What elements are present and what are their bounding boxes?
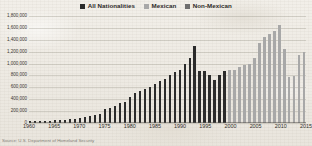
bar — [129, 97, 131, 123]
bar — [223, 71, 225, 123]
bar — [149, 87, 151, 123]
bar — [104, 109, 106, 123]
bar-series-container — [29, 16, 306, 123]
square-swatch-icon — [185, 4, 190, 9]
bar — [243, 65, 245, 123]
x-axis-tick-label: 1960 — [23, 124, 35, 129]
bar — [154, 84, 156, 123]
bar — [248, 64, 250, 123]
y-axis-tick-label: 600,000 — [11, 85, 27, 90]
bar — [208, 75, 210, 123]
x-axis-line — [29, 122, 306, 123]
bar — [273, 31, 275, 123]
bar — [189, 58, 191, 123]
y-axis-tick-label: 1,000,000 — [7, 61, 27, 66]
legend-item-label: All Nationalities — [88, 3, 135, 9]
bar — [293, 76, 295, 123]
source-caption: Source: U.S. Department of Homeland Secu… — [2, 139, 94, 143]
bar — [109, 108, 111, 123]
y-axis-tick-label: 1,400,000 — [7, 37, 27, 42]
x-axis-tick-label: 1965 — [48, 124, 60, 129]
bar — [124, 102, 126, 123]
plot-area: 1,800,0001,600,0001,400,0001,200,0001,00… — [29, 16, 306, 123]
bar — [303, 52, 305, 123]
square-swatch-icon — [144, 4, 149, 9]
x-axis-tick-labels: 1960196519701975198019851990199520002005… — [29, 124, 306, 134]
x-axis-tick-label: 1980 — [124, 124, 136, 129]
bar — [283, 49, 285, 123]
bar — [298, 55, 300, 123]
bar — [134, 93, 136, 123]
x-axis-tick-label: 1970 — [73, 124, 85, 129]
legend-item: All Nationalities — [80, 3, 135, 9]
x-axis-tick-label: 1985 — [149, 124, 161, 129]
x-axis-tick-label: 1975 — [99, 124, 111, 129]
bar — [139, 91, 141, 123]
bar — [184, 64, 186, 123]
bar — [278, 25, 280, 123]
legend-item: Mexican — [144, 3, 176, 9]
bar-chart: All NationalitiesMexicanNon-Mexican 1,80… — [0, 0, 312, 146]
y-axis-tick-label: 1,600,000 — [7, 26, 27, 31]
bar — [174, 72, 176, 123]
legend-item-label: Mexican — [151, 3, 176, 9]
bar — [179, 70, 181, 124]
x-axis-tick-label: 1995 — [199, 124, 211, 129]
bar — [218, 75, 220, 123]
bar — [114, 106, 116, 123]
square-swatch-icon — [80, 4, 85, 9]
bar — [258, 43, 260, 123]
x-axis-tick-label: 2010 — [275, 124, 287, 129]
bar — [238, 67, 240, 123]
x-axis-tick-label: 2000 — [224, 124, 236, 129]
bar — [203, 71, 205, 123]
legend-item-label: Non-Mexican — [193, 3, 232, 9]
bar — [228, 70, 230, 124]
y-axis-tick-label: 1,200,000 — [7, 49, 27, 54]
bar — [169, 75, 171, 123]
bar — [233, 70, 235, 124]
x-axis-tick-label: 1990 — [174, 124, 186, 129]
bar — [268, 34, 270, 123]
y-axis-tick-label: 800,000 — [11, 73, 27, 78]
y-axis-tick-label: 400,000 — [11, 97, 27, 102]
bar — [159, 81, 161, 123]
x-axis-tick-label: 2005 — [250, 124, 262, 129]
bar — [144, 89, 146, 123]
bar — [198, 71, 200, 123]
bar — [288, 77, 290, 123]
legend-item: Non-Mexican — [185, 3, 232, 9]
bar — [263, 37, 265, 123]
y-axis-tick-label: 200,000 — [11, 109, 27, 114]
chart-legend: All NationalitiesMexicanNon-Mexican — [0, 1, 312, 12]
bar — [193, 46, 195, 123]
bar — [253, 58, 255, 123]
y-axis-tick-label: 1,800,000 — [7, 14, 27, 19]
x-axis-tick-label: 2015 — [300, 124, 312, 129]
bar — [213, 80, 215, 123]
bar — [119, 103, 121, 123]
bar — [164, 79, 166, 123]
